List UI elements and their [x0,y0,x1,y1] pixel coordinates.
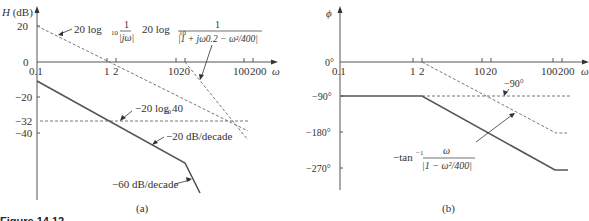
svg-text:|1 − ω²/400|: |1 − ω²/400| [422,160,472,171]
xtick-1: 1 [410,65,416,77]
ytick-neg20: −20 [15,91,33,103]
x-axis-arrow-icon [582,60,589,65]
ytick-neg180: −180° [306,127,331,138]
xtick-0.1: 0.1 [332,65,346,77]
x-axis-label: ω [581,65,589,77]
total-phase-line [341,96,568,170]
x-axis-label: ω [272,65,280,77]
x-axis-arrow-icon [271,60,278,65]
quadratic-phase-annotation: −tan −1 ω |1 − ω²/400| [393,113,515,171]
ytick-20: 20 [17,20,29,32]
panel-b-label: (b) [442,202,455,215]
xtick-2: 2 [113,65,119,77]
figure-caption: Figure 14.12 [0,215,64,221]
xtick-100: 100 [233,65,250,77]
ytick-neg40: −40 [15,127,33,139]
slope1-annotation: −20 dB/decade [152,130,232,145]
svg-text:−60 dB/decade: −60 dB/decade [112,178,178,190]
xtick-100: 100 [541,65,558,77]
y-axis-arrow-icon [35,6,40,13]
magnitude-plot: H (dB) 20 0 −20 −32 −40 0.1 1 2 10 20 10… [1,6,280,215]
svg-text:10: 10 [164,108,172,116]
svg-text:−tan: −tan [393,151,413,163]
neg90-annotation: −90° [503,78,524,96]
y-axis-label: H (dB) [1,6,33,19]
svg-text:20 log: 20 log [74,23,102,35]
y-axis-arrow-icon [338,6,343,13]
svg-text:1: 1 [124,19,129,30]
xtick-0.1: 0.1 [29,65,43,77]
svg-text:−20 dB/decade: −20 dB/decade [166,130,232,142]
svg-text:1: 1 [215,19,220,30]
xtick-20: 20 [486,65,498,77]
svg-text:20 log: 20 log [142,23,170,35]
svg-text:−90°: −90° [504,78,524,89]
svg-text:40: 40 [172,102,184,114]
svg-text:−1: −1 [416,149,424,157]
y-axis-label: ϕ [326,7,332,19]
constant-annotation: −20 log 10 40 [120,102,184,121]
xtick-10: 10 [168,65,180,77]
ytick-neg32: −32 [15,115,32,127]
slope2-annotation: −60 dB/decade [112,177,192,190]
svg-text:|jω|: |jω| [119,32,134,43]
svg-text:|1 + jω0.2 − ω²/400|: |1 + jω0.2 − ω²/400| [178,34,258,44]
ytick-neg270: −270° [306,163,331,174]
xtick-10: 10 [474,65,486,77]
bode-figure: H (dB) 20 0 −20 −32 −40 0.1 1 2 10 20 10… [0,0,589,221]
integrator-annotation: 20 log 10 1 |jω| [58,19,134,43]
xtick-200: 200 [250,65,267,77]
svg-text:ω: ω [443,145,450,156]
panel-a-label: (a) [136,202,149,215]
xtick-1: 1 [104,65,110,77]
svg-text:10: 10 [111,29,119,37]
xtick-200: 200 [558,65,575,77]
xtick-2: 2 [419,65,425,77]
ytick-neg90: −90° [312,91,332,102]
phase-plot: ϕ 0° −90° −180° −270° 0.1 1 2 10 20 100 … [306,6,589,215]
